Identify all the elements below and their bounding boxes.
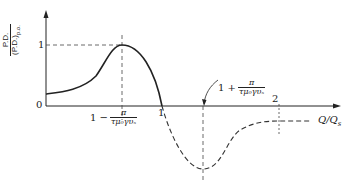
y-label-numerator: P.D. — [2, 32, 10, 49]
solid-curve — [46, 45, 162, 106]
x-tick-1: 1 — [158, 108, 164, 118]
y-tick-1: 1 — [38, 40, 44, 50]
annotation-arrow-icon — [202, 99, 207, 106]
y-label-denominator: (P.D.)p.o. — [10, 24, 21, 56]
x-axis-label: Q/Qs — [318, 115, 341, 128]
right-marker-label: 1 + π τμ₀γυₛ — [218, 79, 265, 97]
x-tick-2: 2 — [272, 94, 278, 104]
x-axis-arrow-icon — [333, 104, 341, 109]
left-marker-label: 1 − π τμ₀γυₛ — [90, 109, 137, 127]
diagram-canvas — [0, 0, 349, 187]
dashed-curve — [162, 106, 312, 169]
y-axis-label: P.D. (P.D.)p.o. — [2, 24, 21, 56]
y-tick-0: 0 — [36, 100, 42, 110]
y-axis-arrow-icon — [44, 10, 49, 18]
